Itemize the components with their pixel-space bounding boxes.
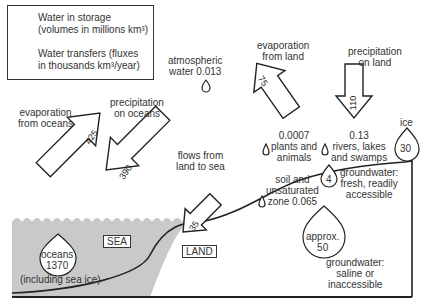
oceans-note: (including sea ice) [20,274,101,285]
sea-label: SEA [103,235,131,248]
atmospheric-label: atmosphericwater 0.013 [168,55,222,77]
evap-oceans-label: evaporationfrom oceans [18,107,73,129]
soil-label: soil andunsaturatedzone 0.065 [266,174,319,207]
legend-box: Water in storage (volumes in millions km… [7,5,154,80]
droplet-rivers-icon [322,144,328,155]
saline-gw-label: groundwater:saline orinaccessible [326,257,384,290]
saline-gw-value: approx.50 [306,231,339,253]
ice-label: ice [400,117,413,128]
precip-land-label: precipitationon land [348,46,402,68]
legend-storage-line1: Water in storage [38,12,111,23]
droplet-atmospheric-icon [202,80,210,92]
plants-label: 0.0007plants andanimals [271,130,317,163]
fresh-gw-value: 4 [326,174,332,185]
legend-transfer-line2: in thousands km³/year) [38,60,140,71]
legend-transfer-line1: Water transfers (fluxes [38,48,138,59]
droplet-soil-icon [259,196,265,207]
arrow-land-to-sea [172,189,226,243]
land-label: LAND [182,245,217,258]
sea-area [12,218,192,297]
oceans-value: oceans1370 [41,249,73,271]
ice-value: 30 [400,143,411,154]
droplet-plants-icon [263,144,269,155]
precip-land-value: 110 [348,96,358,110]
land-to-sea-label: flows fromland to sea [176,150,225,172]
precip-oceans-label: precipitationon oceans [110,97,164,119]
legend-storage-line2: (volumes in millions km³) [38,24,148,35]
rivers-label: 0.13rivers, lakesand swamps [331,130,387,163]
evap-land-label: evaporationfrom land [257,40,309,62]
arrow-evap-land [241,53,307,124]
fresh-gw-label: groundwater:fresh, readilyaccessible [340,167,398,200]
